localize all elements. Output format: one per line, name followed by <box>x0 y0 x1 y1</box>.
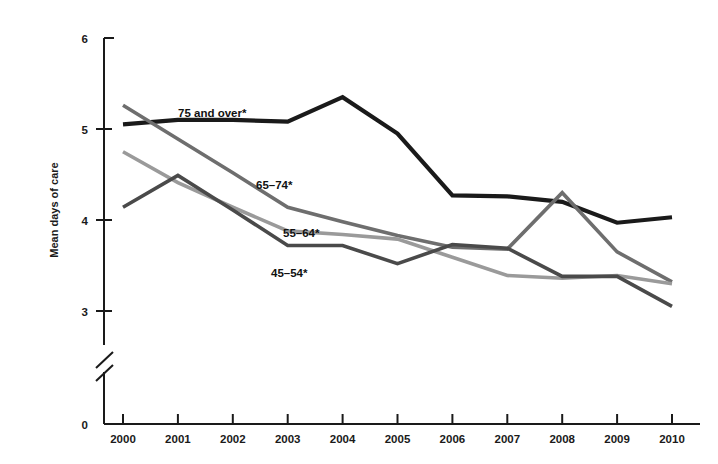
y-tick-label-4: 4 <box>82 215 89 227</box>
series-label-55-64: 55–64* <box>283 227 320 239</box>
x-tick-label-2002: 2002 <box>220 433 246 445</box>
chart-svg: 6 5 4 3 0 Mean days of care 200020012002… <box>0 0 718 464</box>
x-tick-label-2005: 2005 <box>385 433 411 445</box>
line-chart: 6 5 4 3 0 Mean days of care 200020012002… <box>0 0 718 464</box>
series-label-45-54: 45–54* <box>271 267 308 279</box>
x-tick-label-2008: 2008 <box>549 433 575 445</box>
series-label-65-74: 65–74* <box>256 179 293 191</box>
x-tick-label-2004: 2004 <box>330 433 356 445</box>
y-axis-title: Mean days of care <box>48 162 60 257</box>
x-tick-label-2006: 2006 <box>440 433 466 445</box>
y-tick-label-6: 6 <box>82 33 88 45</box>
x-tick-label-2003: 2003 <box>275 433 301 445</box>
series-label-75-and-over: 75 and over* <box>178 107 247 119</box>
chart-background <box>0 0 718 464</box>
y-tick-label-5: 5 <box>82 124 89 136</box>
x-tick-label-2007: 2007 <box>495 433 521 445</box>
x-tick-label-2001: 2001 <box>165 433 191 445</box>
x-tick-label-2000: 2000 <box>110 433 136 445</box>
y-tick-label-0: 0 <box>82 419 88 431</box>
x-tick-label-2009: 2009 <box>604 433 630 445</box>
y-tick-label-3: 3 <box>82 306 88 318</box>
x-tick-label-2010: 2010 <box>659 433 685 445</box>
